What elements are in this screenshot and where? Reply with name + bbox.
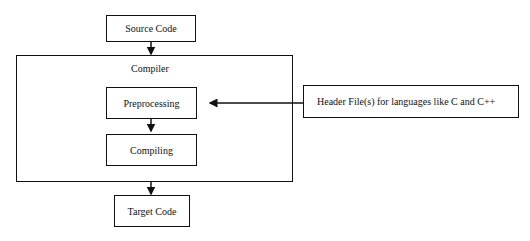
compiler-label: Compiler (131, 63, 169, 74)
source-code-label: Source Code (125, 23, 176, 34)
target-code-node: Target Code (114, 195, 190, 227)
preprocessing-label: Preprocessing (123, 98, 179, 109)
preprocessing-node: Preprocessing (106, 87, 197, 119)
source-code-node: Source Code (106, 15, 196, 42)
header-files-node: Header File(s) for languages like C and … (303, 85, 519, 118)
header-files-label: Header File(s) for languages like C and … (317, 96, 495, 107)
compiling-node: Compiling (106, 134, 197, 166)
compiling-label: Compiling (130, 145, 173, 156)
target-code-label: Target Code (128, 206, 177, 217)
